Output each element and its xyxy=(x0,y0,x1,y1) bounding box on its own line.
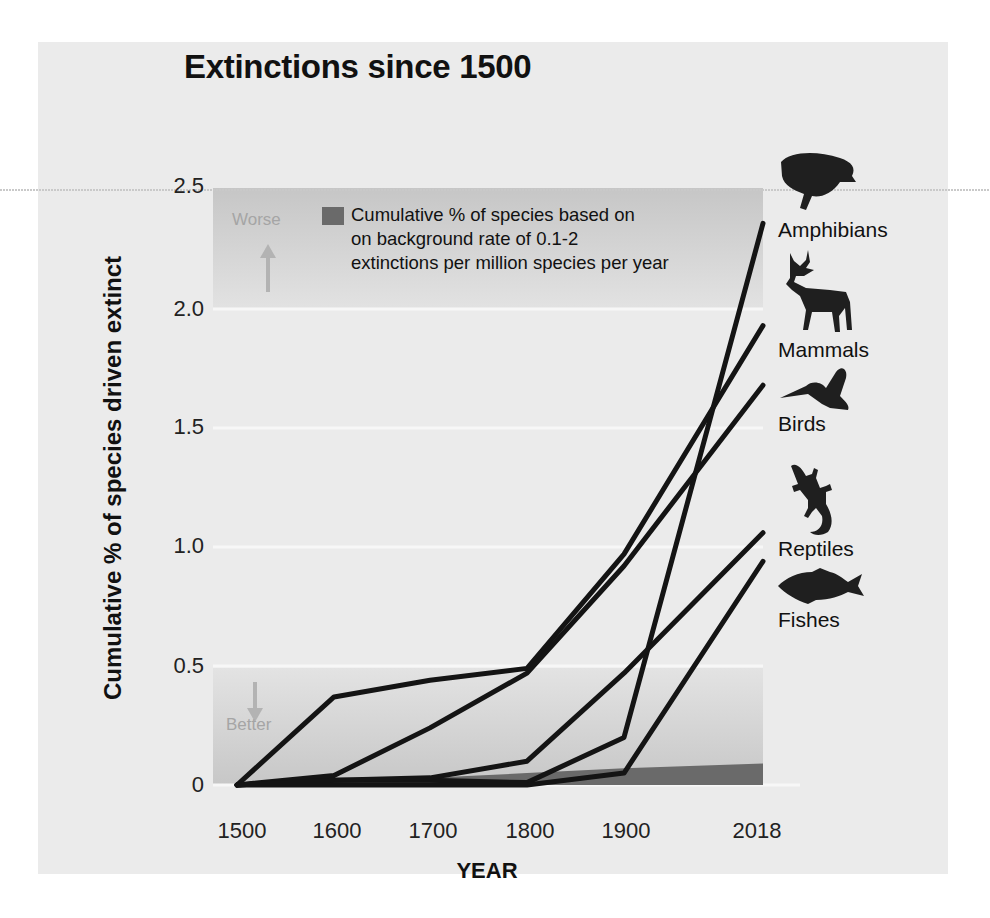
y-axis-label: Cumulative % of species driven extinct xyxy=(99,256,127,700)
x-tick-1600: 1600 xyxy=(313,818,362,844)
label-birds: Birds xyxy=(778,412,826,436)
deer-icon xyxy=(786,250,852,332)
label-reptiles: Reptiles xyxy=(778,537,854,561)
legend-line-3: extinctions per million species per year xyxy=(351,251,771,275)
frog-icon xyxy=(781,153,856,210)
x-tick-1700: 1700 xyxy=(409,818,458,844)
legend-swatch xyxy=(322,207,344,225)
y-tick-2.5: 2.5 xyxy=(144,173,204,199)
label-fishes: Fishes xyxy=(778,608,840,632)
x-axis-label: YEAR xyxy=(456,858,517,884)
fish-icon xyxy=(778,568,864,604)
legend-text: Cumulative % of species based on on back… xyxy=(351,203,771,275)
x-tick-1500: 1500 xyxy=(218,818,267,844)
label-amphibians: Amphibians xyxy=(778,218,888,242)
y-tick-0.5: 0.5 xyxy=(144,653,204,679)
y-tick-1.5: 1.5 xyxy=(144,414,204,440)
legend-line-2: on background rate of 0.1-2 xyxy=(351,227,771,251)
y-tick-0: 0 xyxy=(144,772,204,798)
worse-better-arrows xyxy=(247,244,276,722)
y-tick-1.0: 1.0 xyxy=(144,533,204,559)
y-tick-2.0: 2.0 xyxy=(144,296,204,322)
x-tick-1800: 1800 xyxy=(506,818,555,844)
legend-line-1: Cumulative % of species based on xyxy=(351,203,771,227)
x-tick-1900: 1900 xyxy=(602,818,651,844)
lizard-icon xyxy=(791,465,832,535)
better-annotation: Better xyxy=(226,715,271,735)
label-mammals: Mammals xyxy=(778,338,869,362)
hummingbird-icon xyxy=(780,368,849,410)
worse-annotation: Worse xyxy=(232,210,281,230)
x-tick-2018: 2018 xyxy=(733,818,782,844)
